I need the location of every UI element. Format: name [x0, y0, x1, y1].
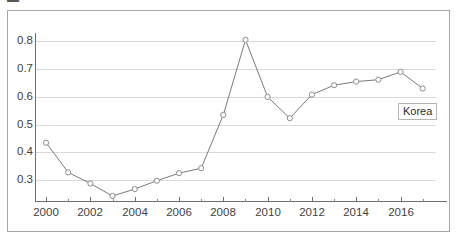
- chart-frame: 0.80.70.60.50.40.3 200020022004200620082…: [7, 10, 450, 232]
- data-point-korea-2010: [265, 94, 270, 99]
- data-point-korea-2012: [309, 92, 314, 97]
- data-point-korea-2000: [44, 140, 49, 145]
- series-label-korea: Korea: [398, 103, 437, 120]
- data-point-korea-2001: [66, 170, 71, 175]
- data-point-korea-2017: [420, 86, 425, 91]
- data-point-korea-2004: [132, 187, 137, 192]
- data-point-korea-2009: [243, 37, 248, 42]
- series-korea-plot: [8, 11, 451, 233]
- heading-fragment-right: — — — — —: [48, 0, 148, 5]
- data-point-korea-2007: [199, 166, 204, 171]
- data-point-korea-2016: [398, 69, 403, 74]
- data-point-korea-2014: [354, 79, 359, 84]
- data-point-korea-2006: [176, 171, 181, 176]
- data-point-korea-2005: [154, 178, 159, 183]
- clipped-heading-fragment: ▬ — — — — —: [0, 0, 457, 5]
- data-point-korea-2002: [88, 181, 93, 186]
- data-point-korea-2013: [332, 83, 337, 88]
- data-point-korea-2015: [376, 77, 381, 82]
- plot-area: 0.80.70.60.50.40.3 200020022004200620082…: [8, 11, 451, 233]
- data-point-korea-2003: [110, 193, 115, 198]
- heading-fragment-left: ▬: [7, 0, 22, 5]
- data-point-korea-2008: [221, 112, 226, 117]
- series-line-korea: [46, 40, 423, 196]
- data-point-korea-2011: [287, 116, 292, 121]
